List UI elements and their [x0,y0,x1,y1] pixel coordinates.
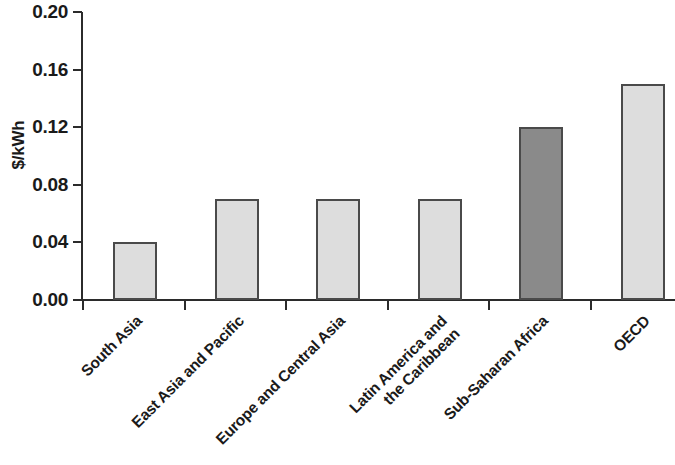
bar-chart: $/kWh 0.000.040.080.120.160.20 South Asi… [0,0,675,465]
y-axis-tick-label: 0.12 [0,117,68,136]
bar [316,199,360,300]
y-axis-tick [73,184,82,186]
bar [215,199,259,300]
y-axis-tick-label: 0.04 [0,232,68,251]
bar [621,84,665,300]
x-axis-tick [488,301,490,310]
y-axis-tick-label: 0.08 [0,175,68,194]
y-axis-tick-label: 0.16 [0,60,68,79]
y-axis-tick-label: 0.00 [0,290,68,309]
y-axis-tick [73,69,82,71]
bar [418,199,462,300]
y-axis-tick [73,241,82,243]
x-axis-tick [184,301,186,310]
x-axis-tick [82,301,84,310]
bar [519,127,563,300]
bar [113,242,157,300]
y-axis-tick [73,11,82,13]
plot-area [82,12,675,300]
x-axis-tick [387,301,389,310]
y-axis-tick-label: 0.20 [0,2,68,21]
x-axis-tick [285,301,287,310]
x-axis-tick [590,301,592,310]
y-axis-tick [73,299,82,301]
y-axis-tick [73,126,82,128]
